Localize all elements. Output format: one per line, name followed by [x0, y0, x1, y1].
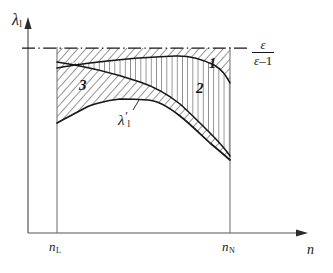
diagram-canvas [0, 0, 333, 273]
lambda-prime-curve-label: λ′l [118, 110, 130, 129]
x-tick-label-n-lower: nL [49, 240, 61, 255]
figure-container: λl n nL nN λ′l 1 2 3 ε ε–1 [0, 0, 333, 273]
axis-y [24, 17, 31, 233]
x-tick-label-n-upper: nN [222, 240, 235, 255]
y-axis-label: λl [12, 12, 22, 29]
asymptote-denominator: ε–1 [252, 53, 274, 67]
x-axis-label: n [307, 243, 314, 257]
region-1-label: 1 [209, 57, 216, 71]
lambda-prime-leader-line [133, 100, 139, 110]
region-3-label: 3 [79, 78, 87, 93]
asymptote-numerator: ε [252, 38, 274, 53]
axis-x [28, 229, 308, 236]
region-2-label: 2 [196, 81, 204, 96]
asymptote-label: ε ε–1 [252, 38, 274, 67]
